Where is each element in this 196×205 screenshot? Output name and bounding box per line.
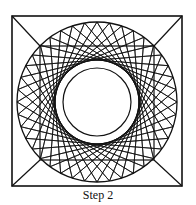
string-chord <box>133 31 144 167</box>
string-chord <box>50 37 61 173</box>
string-chord <box>26 55 162 66</box>
string-chord <box>133 37 144 173</box>
corner-diagonal <box>12 16 40 46</box>
string-art-diagram <box>0 0 196 190</box>
string-chord <box>26 138 162 149</box>
string-chord <box>32 55 168 66</box>
string-chord <box>32 138 168 149</box>
corner-diagonal <box>12 160 40 186</box>
figure-caption: Step 2 <box>0 188 196 203</box>
center-hole <box>63 68 131 136</box>
corner-diagonal <box>154 160 182 186</box>
corner-diagonal <box>154 16 182 46</box>
string-chord <box>50 31 61 167</box>
